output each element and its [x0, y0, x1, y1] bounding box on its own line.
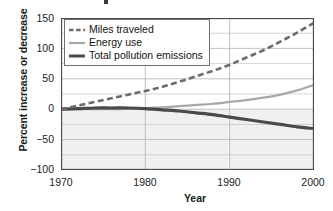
legend-label: Total pollution emissions [89, 49, 203, 62]
legend-item-energy-use: Energy use [69, 36, 203, 49]
dashed-line-swatch [69, 25, 85, 35]
line-chart: Percent increase or decrease 150 100 50 … [0, 0, 333, 211]
light-solid-line-swatch [69, 38, 85, 48]
x-tick-label: 1980 [133, 176, 156, 188]
y-tick-label: 50 [18, 72, 54, 84]
bold-solid-line-swatch [69, 51, 85, 61]
y-tick-label: −100 [18, 163, 54, 175]
y-tick-label: 0 [18, 102, 54, 114]
legend-label: Miles traveled [89, 23, 154, 36]
y-tick-label: 150 [18, 12, 54, 24]
x-axis-title: Year [60, 192, 330, 204]
x-tick-label: 2000 [301, 176, 324, 188]
x-tick-label: 1970 [49, 176, 72, 188]
y-tick-label: 100 [18, 42, 54, 54]
legend: Miles traveled Energy use Total pollutio… [64, 19, 210, 66]
cropped-title-artifact [104, 0, 108, 4]
legend-item-miles-traveled: Miles traveled [69, 23, 203, 36]
legend-item-total-pollution-emissions: Total pollution emissions [69, 49, 203, 62]
legend-label: Energy use [89, 36, 142, 49]
x-tick-label: 1990 [217, 176, 240, 188]
y-tick-label: −50 [18, 133, 54, 145]
